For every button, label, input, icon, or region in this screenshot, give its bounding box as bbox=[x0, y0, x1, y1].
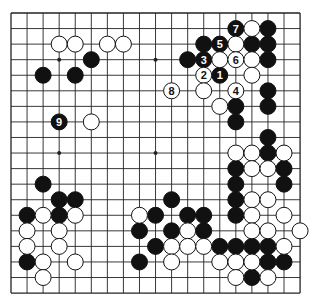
black-stone bbox=[260, 145, 276, 161]
move-number-label: 9 bbox=[56, 116, 62, 128]
black-stone: 9 bbox=[51, 114, 67, 130]
white-stone bbox=[228, 145, 244, 161]
white-stone bbox=[244, 21, 260, 37]
white-stone bbox=[228, 254, 244, 270]
go-board: 975316284 bbox=[0, 0, 312, 304]
black-stone: 3 bbox=[196, 52, 212, 68]
black-stone bbox=[83, 52, 99, 68]
black-stone bbox=[244, 238, 260, 254]
black-stone bbox=[260, 254, 276, 270]
white-stone bbox=[244, 52, 260, 68]
black-stone bbox=[228, 161, 244, 177]
move-number-label: 3 bbox=[201, 54, 207, 66]
black-stone bbox=[196, 223, 212, 239]
white-stone bbox=[180, 223, 196, 239]
black-stone bbox=[276, 176, 292, 192]
black-stone bbox=[164, 223, 180, 239]
white-stone bbox=[276, 145, 292, 161]
black-stone bbox=[212, 238, 228, 254]
black-stone bbox=[35, 176, 51, 192]
white-stone bbox=[131, 207, 147, 223]
black-stone bbox=[260, 238, 276, 254]
white-stone bbox=[164, 254, 180, 270]
white-stone bbox=[212, 254, 228, 270]
black-stone bbox=[244, 36, 260, 52]
black-stone bbox=[260, 36, 276, 52]
white-stone bbox=[244, 161, 260, 177]
black-stone bbox=[19, 207, 35, 223]
star-point bbox=[57, 151, 61, 155]
white-stone bbox=[115, 36, 131, 52]
white-stone bbox=[19, 223, 35, 239]
black-stone bbox=[244, 270, 260, 286]
white-stone bbox=[244, 207, 260, 223]
star-point bbox=[154, 151, 158, 155]
star-point bbox=[57, 58, 61, 62]
white-stone bbox=[244, 254, 260, 270]
black-stone bbox=[260, 129, 276, 145]
black-stone bbox=[67, 192, 83, 208]
black-stone bbox=[276, 254, 292, 270]
white-stone: 6 bbox=[228, 52, 244, 68]
black-stone bbox=[260, 83, 276, 99]
black-stone bbox=[228, 176, 244, 192]
black-stone: 5 bbox=[212, 36, 228, 52]
white-stone bbox=[260, 161, 276, 177]
white-stone bbox=[260, 223, 276, 239]
black-stone bbox=[260, 52, 276, 68]
black-stone: 1 bbox=[212, 67, 228, 83]
move-number-label: 6 bbox=[233, 54, 239, 66]
black-stone bbox=[148, 238, 164, 254]
white-stone bbox=[51, 223, 67, 239]
black-stone bbox=[276, 161, 292, 177]
black-stone bbox=[164, 192, 180, 208]
black-stone bbox=[228, 98, 244, 114]
black-stone bbox=[180, 207, 196, 223]
white-stone: 4 bbox=[228, 83, 244, 99]
white-stone bbox=[212, 52, 228, 68]
white-stone: 8 bbox=[164, 83, 180, 99]
move-number-label: 1 bbox=[217, 69, 223, 81]
white-stone bbox=[67, 207, 83, 223]
white-stone bbox=[276, 238, 292, 254]
white-stone bbox=[35, 254, 51, 270]
white-stone bbox=[196, 238, 212, 254]
white-stone bbox=[260, 192, 276, 208]
black-stone bbox=[228, 114, 244, 130]
white-stone bbox=[244, 192, 260, 208]
white-stone bbox=[276, 207, 292, 223]
black-stone bbox=[260, 98, 276, 114]
white-stone bbox=[51, 36, 67, 52]
black-stone bbox=[228, 207, 244, 223]
white-stone bbox=[244, 223, 260, 239]
white-stone bbox=[292, 223, 308, 239]
move-number-label: 2 bbox=[201, 69, 207, 81]
white-stone bbox=[244, 145, 260, 161]
black-stone bbox=[260, 21, 276, 37]
black-stone bbox=[196, 36, 212, 52]
white-stone bbox=[19, 238, 35, 254]
white-stone bbox=[67, 254, 83, 270]
move-number-label: 4 bbox=[233, 85, 240, 97]
move-number-label: 5 bbox=[217, 38, 223, 50]
black-stone: 7 bbox=[228, 21, 244, 37]
white-stone bbox=[260, 270, 276, 286]
white-stone bbox=[67, 36, 83, 52]
white-stone bbox=[212, 98, 228, 114]
move-number-label: 7 bbox=[233, 23, 239, 35]
white-stone bbox=[244, 67, 260, 83]
white-stone bbox=[164, 238, 180, 254]
white-stone bbox=[51, 238, 67, 254]
black-stone bbox=[131, 223, 147, 239]
white-stone: 2 bbox=[196, 67, 212, 83]
black-stone bbox=[67, 67, 83, 83]
black-stone bbox=[35, 67, 51, 83]
white-stone bbox=[35, 270, 51, 286]
white-stone bbox=[35, 207, 51, 223]
black-stone bbox=[148, 207, 164, 223]
white-stone bbox=[228, 36, 244, 52]
black-stone bbox=[228, 192, 244, 208]
star-point bbox=[154, 58, 158, 62]
white-stone bbox=[99, 36, 115, 52]
black-stone bbox=[19, 254, 35, 270]
